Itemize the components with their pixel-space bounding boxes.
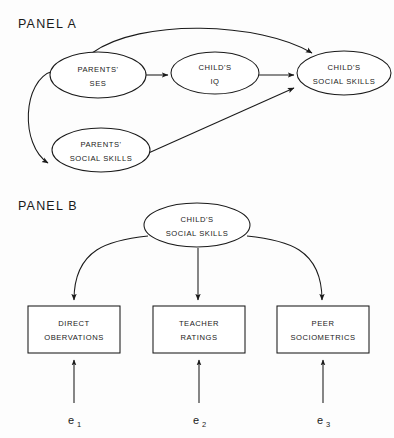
parents-ses-label-line1: PARENTS' [77, 65, 118, 74]
node-teacher-ratings[interactable]: TEACHER RATINGS [153, 306, 245, 353]
childs-social-skills-latent-ellipse [144, 203, 250, 247]
edge-latent-to-direct-obervations [74, 236, 148, 300]
error-term-e1: e 1 [68, 414, 81, 429]
e2-subscript: 2 [202, 420, 206, 429]
panel-b-label: PANEL B [18, 199, 78, 213]
direct-obervations-label-line2: OBERVATIONS [44, 333, 104, 342]
childs-social-skills-ellipse [297, 51, 391, 95]
error-term-e2: e 2 [193, 414, 206, 429]
direct-obervations-label-line1: DIRECT [58, 319, 90, 328]
edge-parents-ses-to-childs-social-skills [92, 28, 312, 53]
node-childs-iq[interactable]: CHILD'S IQ [171, 52, 259, 94]
panel-a-label: PANEL A [18, 17, 77, 31]
parents-social-skills-ellipse [52, 128, 150, 172]
e3-subscript: 3 [326, 420, 330, 429]
path-diagram-figure: PANEL A PARENTS' SES CHILD'S IQ CHILD'S … [0, 0, 394, 438]
node-parents-ses[interactable]: PARENTS' SES [50, 52, 146, 98]
node-childs-social-skills-panel-b[interactable]: CHILD'S SOCIAL SKILLS [144, 203, 250, 247]
childs-social-skills-latent-label-line2: SOCIAL SKILLS [166, 229, 229, 238]
edge-parents-ses-correlation-parents-social-skills [28, 71, 53, 163]
childs-social-skills-label-line2: SOCIAL SKILLS [313, 77, 376, 86]
peer-sociometrics-box [277, 306, 369, 353]
teacher-ratings-label-line1: TEACHER [179, 319, 219, 328]
peer-sociometrics-label-line2: SOCIOMETRICS [290, 333, 355, 342]
e3-symbol: e [317, 414, 323, 426]
teacher-ratings-label-line2: RATINGS [180, 333, 217, 342]
parents-ses-ellipse [50, 52, 146, 98]
e1-subscript: 1 [77, 420, 81, 429]
childs-iq-label-line2: IQ [210, 77, 219, 86]
edge-latent-to-peer-sociometrics [247, 236, 322, 300]
childs-iq-ellipse [171, 52, 259, 94]
childs-iq-label-line1: CHILD'S [198, 63, 231, 72]
childs-social-skills-label-line1: CHILD'S [327, 63, 360, 72]
node-peer-sociometrics[interactable]: PEER SOCIOMETRICS [277, 306, 369, 353]
edge-parents-social-skills-to-childs-social-skills [144, 88, 294, 155]
teacher-ratings-box [153, 306, 245, 353]
error-term-e3: e 3 [317, 414, 330, 429]
parents-social-skills-label-line2: SOCIAL SKILLS [70, 154, 133, 163]
parents-social-skills-label-line1: PARENTS' [80, 140, 121, 149]
direct-obervations-box [28, 306, 120, 353]
parents-ses-label-line2: SES [90, 79, 107, 88]
node-parents-social-skills[interactable]: PARENTS' SOCIAL SKILLS [52, 128, 150, 172]
e1-symbol: e [68, 414, 74, 426]
node-childs-social-skills-panel-a[interactable]: CHILD'S SOCIAL SKILLS [297, 51, 391, 95]
peer-sociometrics-label-line1: PEER [312, 319, 335, 328]
e2-symbol: e [193, 414, 199, 426]
childs-social-skills-latent-label-line1: CHILD'S [180, 215, 213, 224]
node-direct-obervations[interactable]: DIRECT OBERVATIONS [28, 306, 120, 353]
